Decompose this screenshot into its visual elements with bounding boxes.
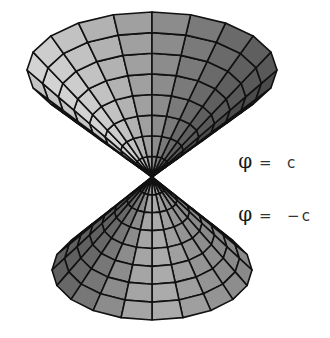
mesh-face: [123, 53, 152, 75]
mesh-face: [152, 33, 186, 56]
mesh-face: [128, 74, 152, 96]
mesh-face: [152, 247, 171, 266]
label-value: = −c: [252, 207, 312, 225]
mesh-face: [118, 33, 152, 56]
mesh-face: [121, 300, 152, 320]
mesh-face: [133, 247, 152, 266]
phi-symbol: φ: [238, 149, 252, 173]
label-phi-equals-minus-c: φ = −c: [228, 188, 312, 224]
mesh-face: [152, 265, 175, 285]
mesh-face: [113, 12, 152, 35]
mesh-face: [152, 53, 181, 75]
label-phi-equals-c: φ = c: [228, 135, 297, 171]
mesh-face: [152, 74, 176, 96]
mesh-face: [152, 300, 183, 320]
mesh-face: [152, 12, 191, 35]
mesh-face: [129, 265, 152, 285]
mesh-face: [125, 282, 152, 302]
phi-symbol: φ: [238, 202, 252, 226]
lower-nappe-surface: [52, 177, 252, 320]
label-value: = c: [252, 154, 297, 172]
mesh-face: [152, 282, 179, 302]
